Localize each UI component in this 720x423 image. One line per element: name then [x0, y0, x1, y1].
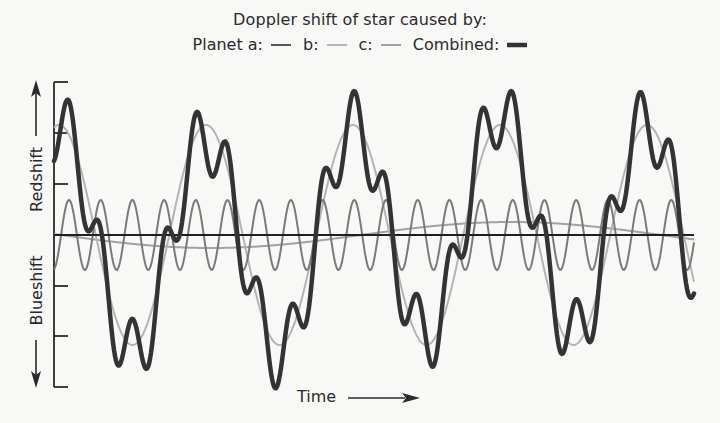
blueshift-arrow-icon	[31, 340, 41, 388]
combined-curve	[54, 91, 694, 388]
y-label-blueshift: Blueshift	[27, 251, 46, 331]
y-label-redshift: Redshift	[27, 140, 46, 220]
time-arrow-icon	[348, 393, 420, 403]
plot-area	[0, 0, 720, 423]
redshift-arrow-icon	[31, 80, 41, 136]
x-label-time: Time	[297, 387, 336, 406]
